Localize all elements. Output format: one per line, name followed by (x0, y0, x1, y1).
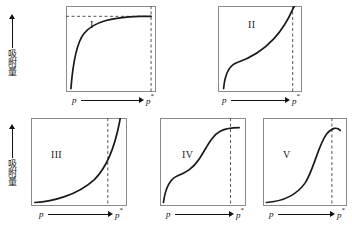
panel-type-4: IV p p* (160, 118, 246, 226)
x-axis-end-label: p* (146, 94, 154, 106)
x-axis-caption: p p* (222, 94, 300, 106)
panel-roman-label: III (51, 150, 62, 160)
panel-type-1: I p p* (66, 6, 156, 110)
y-axis-label-bottom: 吸附量 (7, 159, 16, 186)
x-axis-end-label: p* (337, 208, 345, 220)
x-axis-caption: p p* (166, 208, 244, 220)
x-axis-start-label: p (222, 95, 227, 105)
right-arrow-icon (276, 211, 336, 218)
x-axis-start-label: p (166, 209, 171, 219)
isotherm-curve (71, 16, 151, 88)
plot-curve-area (218, 6, 302, 92)
x-axis-end-label: p* (236, 208, 244, 220)
x-axis-start-label: p (72, 95, 77, 105)
panel-type-5: V p p* (263, 118, 347, 226)
x-axis-end-label: p* (115, 208, 123, 220)
isotherm-curve (266, 128, 340, 202)
panel-roman-label: V (283, 150, 291, 160)
panel-roman-label: II (248, 20, 255, 30)
x-axis-caption: p p* (269, 208, 345, 220)
x-axis-start-label: p (39, 209, 44, 219)
up-arrow-icon (7, 124, 18, 158)
plot-curve-area (263, 118, 347, 206)
isotherm-curve (163, 128, 239, 203)
isotherm-curve (224, 6, 295, 89)
x-axis-caption: p p* (39, 208, 123, 220)
plot-curve-area (66, 6, 156, 92)
right-arrow-icon (79, 97, 145, 104)
plot-curve-area (160, 118, 246, 206)
panel-type-2: II p p* (218, 6, 302, 110)
y-axis-bottom: 吸附量 (4, 124, 20, 186)
adsorption-isotherm-figure: 吸附量 I p p* II p p* 吸附量 (0, 0, 352, 232)
y-axis-top: 吸附量 (4, 14, 20, 76)
panel-roman-label: I (90, 20, 94, 30)
panel-type-3: III p p* (31, 118, 127, 226)
right-arrow-icon (229, 97, 291, 104)
y-axis-label-top: 吸附量 (7, 49, 16, 76)
up-arrow-icon (7, 14, 18, 48)
panel-roman-label: IV (182, 150, 193, 160)
right-arrow-icon (46, 211, 114, 218)
x-axis-caption: p p* (72, 94, 154, 106)
x-axis-end-label: p* (292, 94, 300, 106)
plot-curve-area (31, 118, 127, 206)
right-arrow-icon (173, 211, 235, 218)
x-axis-start-label: p (269, 209, 274, 219)
